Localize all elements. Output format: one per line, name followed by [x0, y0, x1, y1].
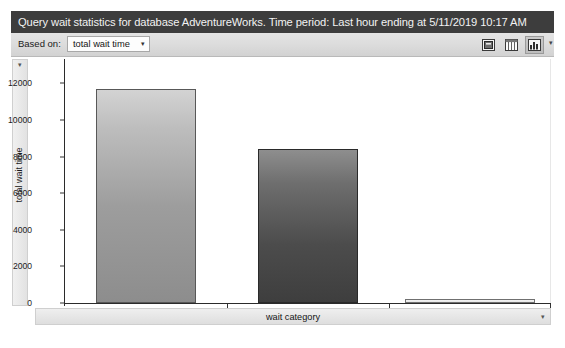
- y-axis-tick-label: 10000: [0, 115, 32, 125]
- y-axis-tick-label: 8000: [0, 152, 32, 162]
- x-axis-title: wait category: [36, 312, 550, 322]
- query-wait-statistics-panel: Query wait statistics for database Adven…: [11, 11, 554, 327]
- grid-view-button[interactable]: [502, 36, 521, 54]
- y-axis-tick-label: 0: [0, 298, 32, 308]
- y-axis-tick-label: 6000: [0, 188, 32, 198]
- export-icon: [482, 39, 495, 51]
- x-axis-title-panel[interactable]: wait category ▾: [35, 308, 551, 325]
- y-axis-tick-label: 4000: [0, 225, 32, 235]
- chart-toolbar: Based on: total wait time ▾: [11, 33, 554, 57]
- plot-area: 020004000600080001000012000: [35, 59, 551, 306]
- based-on-dropdown[interactable]: total wait time ▾: [67, 36, 150, 52]
- bar-cpu[interactable]: [96, 89, 196, 303]
- based-on-label: Based on:: [18, 38, 61, 49]
- y-axis-tick-label: 12000: [0, 78, 32, 88]
- y-axis-chevron-icon[interactable]: ▾: [13, 61, 27, 69]
- table-grid-icon: [505, 39, 518, 51]
- bar-buffer-latch[interactable]: [258, 149, 358, 303]
- y-axis-tick-label: 2000: [0, 261, 32, 271]
- export-button[interactable]: [479, 36, 498, 54]
- bar-chart-icon: [528, 39, 541, 51]
- chart-body: ▾ total wait time 0200040006000800010000…: [11, 57, 554, 327]
- based-on-dropdown-value: total wait time: [73, 39, 130, 49]
- chart-view-button[interactable]: [525, 36, 544, 54]
- y-axis-line: [64, 59, 65, 306]
- chevron-down-icon: ▾: [141, 40, 145, 48]
- toolbar-overflow-chevron[interactable]: ▾: [547, 38, 554, 47]
- panel-title: Query wait statistics for database Adven…: [11, 11, 554, 33]
- x-axis-chevron-icon[interactable]: ▾: [541, 312, 545, 322]
